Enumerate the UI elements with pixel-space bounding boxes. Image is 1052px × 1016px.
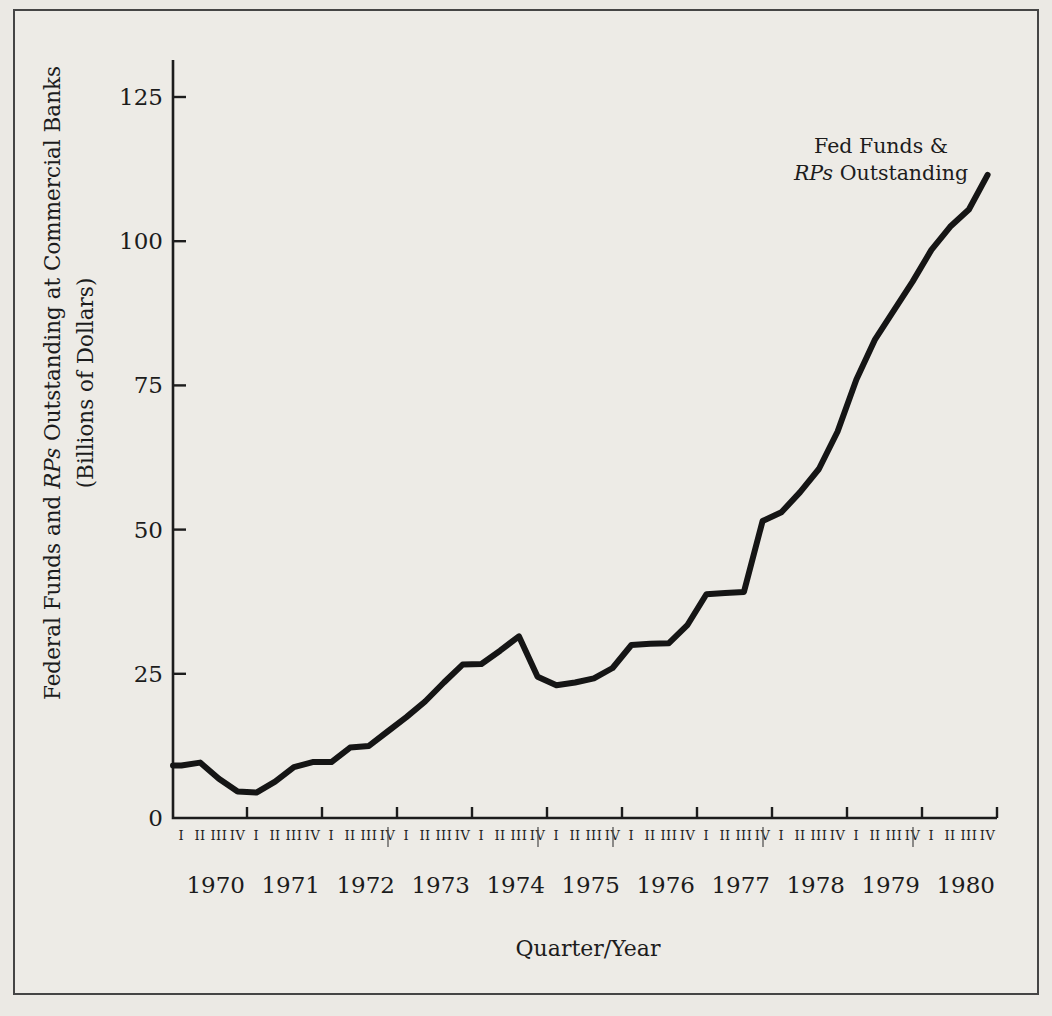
- quarter-tick-label: IV: [455, 828, 471, 843]
- quarter-tick-label: III: [735, 828, 752, 843]
- y-tick-label: 0: [148, 805, 163, 831]
- quarter-tick-label: IV: [830, 828, 846, 843]
- y-tick-label: 75: [134, 372, 163, 398]
- quarter-tick-label: III: [810, 828, 827, 843]
- quarter-tick-label: IV: [230, 828, 246, 843]
- quarter-tick-label: I: [404, 828, 410, 843]
- year-label: 1976: [636, 872, 695, 898]
- quarter-tick-label: IV: [680, 828, 696, 843]
- quarter-tick-label: IV: [305, 828, 321, 843]
- quarter-tick-label: I: [929, 828, 935, 843]
- series-annotation-line1: Fed Funds &: [794, 133, 968, 160]
- quarter-tick-label: I: [629, 828, 635, 843]
- quarter-tick-label: I: [779, 828, 785, 843]
- quarter-tick-label: II: [644, 828, 655, 843]
- year-label: 1975: [561, 872, 620, 898]
- quarter-tick-label: II: [794, 828, 805, 843]
- x-axis-title: Quarter/Year: [516, 935, 661, 962]
- year-label: 1980: [936, 872, 995, 898]
- quarter-tick-label: I: [479, 828, 485, 843]
- quarter-tick-label: II: [569, 828, 580, 843]
- quarter-tick-label: III: [960, 828, 977, 843]
- scanned-page: 0255075100125IIIIIIIVIIIIIIIVIIIIIIIVIII…: [0, 0, 1052, 1016]
- quarter-tick-label: III: [435, 828, 452, 843]
- quarter-tick-label: I: [554, 828, 560, 843]
- y-tick-label: 25: [134, 661, 163, 687]
- y-axis-title-line1: Federal Funds and RPs Outstanding at Com…: [36, 66, 69, 700]
- year-label: 1970: [186, 872, 245, 898]
- series-annotation-line2: RPs Outstanding: [794, 160, 968, 187]
- quarter-tick-label: I: [254, 828, 260, 843]
- y-tick-label: 50: [134, 517, 163, 543]
- quarter-tick-label: II: [194, 828, 205, 843]
- quarter-tick-label: I: [854, 828, 860, 843]
- quarter-tick-label: I: [179, 828, 185, 843]
- data-line: [173, 175, 988, 793]
- quarter-tick-label: II: [719, 828, 730, 843]
- quarter-tick-label: III: [660, 828, 677, 843]
- series-annotation: Fed Funds & RPs Outstanding: [794, 133, 968, 187]
- year-label: 1971: [261, 872, 320, 898]
- year-label: 1972: [336, 872, 395, 898]
- quarter-tick-label: III: [285, 828, 302, 843]
- quarter-tick-label: II: [269, 828, 280, 843]
- y-axis-title: Federal Funds and RPs Outstanding at Com…: [36, 66, 102, 700]
- y-tick-label: 125: [119, 84, 163, 110]
- quarter-tick-label: III: [585, 828, 602, 843]
- year-label: 1978: [786, 872, 845, 898]
- y-tick-label: 100: [119, 228, 163, 254]
- year-label: 1977: [711, 872, 770, 898]
- quarter-tick-label: I: [329, 828, 335, 843]
- year-label: 1979: [861, 872, 920, 898]
- quarter-tick-label: III: [210, 828, 227, 843]
- year-label: 1974: [486, 872, 545, 898]
- quarter-tick-label: I: [704, 828, 710, 843]
- quarter-tick-label: III: [360, 828, 377, 843]
- quarter-tick-label: II: [494, 828, 505, 843]
- quarter-tick-label: IV: [980, 828, 996, 843]
- quarter-tick-label: II: [869, 828, 880, 843]
- quarter-tick-label: II: [944, 828, 955, 843]
- y-axis-title-line2: (Billions of Dollars): [69, 66, 102, 700]
- quarter-tick-label: III: [510, 828, 527, 843]
- quarter-tick-label: II: [344, 828, 355, 843]
- quarter-tick-label: II: [419, 828, 430, 843]
- quarter-tick-label: III: [885, 828, 902, 843]
- year-label: 1973: [411, 872, 470, 898]
